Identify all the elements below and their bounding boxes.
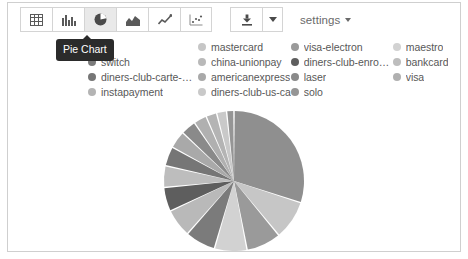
legend-item-label: diners-club-carte-bl...	[101, 71, 198, 83]
legend-color-swatch	[393, 43, 401, 51]
download-button[interactable]	[230, 7, 262, 32]
legend-item-label: diners-club-us-ca	[211, 86, 291, 98]
legend-color-swatch	[88, 88, 96, 96]
chevron-down-icon	[345, 18, 351, 22]
chart-panel: settings jcb switch diners-club-carte-bl…	[7, 2, 461, 252]
area-chart-button[interactable]	[116, 7, 148, 32]
table-view-button[interactable]	[20, 7, 52, 32]
legend-color-swatch	[393, 73, 401, 81]
area-chart-icon	[126, 14, 140, 26]
legend-item-label: diners-club-enroute	[304, 56, 393, 68]
pie-chart-area	[8, 107, 460, 252]
legend-item-label: laser	[304, 71, 327, 83]
tooltip-text: Pie Chart	[63, 43, 107, 55]
legend-color-swatch	[198, 73, 206, 81]
legend-item-label: americanexpress	[211, 71, 290, 83]
legend-item[interactable]: mastercard	[198, 39, 291, 54]
download-options-button[interactable]	[262, 7, 283, 32]
legend-color-swatch	[291, 43, 299, 51]
pie-chart-icon	[94, 13, 107, 26]
legend-item[interactable]: bankcard	[393, 54, 456, 69]
legend-item-label: mastercard	[211, 41, 263, 53]
legend-color-swatch	[291, 73, 299, 81]
toolbar: settings	[8, 3, 460, 36]
table-icon	[30, 14, 43, 26]
legend-item-label: china-unionpay	[211, 56, 282, 68]
download-split-button	[230, 7, 283, 32]
legend-item-label: solo	[304, 86, 323, 98]
legend-column-3: maestro bankcard visa	[393, 39, 456, 99]
caret-down-icon	[269, 17, 277, 22]
legend-item-label: instapayment	[101, 86, 163, 98]
legend-item[interactable]: instapayment	[88, 84, 198, 99]
legend-color-swatch	[393, 58, 401, 66]
legend-color-swatch	[291, 58, 299, 66]
legend-item-label: bankcard	[406, 56, 449, 68]
legend-color-swatch	[198, 88, 206, 96]
download-icon	[241, 14, 253, 26]
legend-color-swatch	[291, 88, 299, 96]
settings-label: settings	[300, 14, 340, 26]
legend-item-label: visa	[406, 71, 424, 83]
legend-color-swatch	[88, 73, 96, 81]
legend-item[interactable]: solo	[291, 84, 393, 99]
legend-item[interactable]: americanexpress	[198, 69, 291, 84]
settings-menu[interactable]: settings	[300, 14, 351, 26]
legend-item[interactable]: diners-club-us-ca	[198, 84, 291, 99]
line-chart-button[interactable]	[148, 7, 180, 32]
legend-color-swatch	[198, 58, 206, 66]
chart-type-button-group	[20, 7, 212, 32]
pie-chart-button[interactable]	[84, 7, 116, 32]
line-chart-icon	[158, 14, 172, 26]
legend-item[interactable]: laser	[291, 69, 393, 84]
legend-column-1: mastercard china-unionpay americanexpres…	[198, 39, 291, 99]
legend-item-label: visa-electron	[304, 41, 363, 53]
legend-item[interactable]: china-unionpay	[198, 54, 291, 69]
pie-chart-graphic[interactable]	[157, 109, 311, 252]
legend-item[interactable]: visa-electron	[291, 39, 393, 54]
scatter-chart-button[interactable]	[180, 7, 212, 32]
legend-item[interactable]: maestro	[393, 39, 456, 54]
screenshot-root: settings jcb switch diners-club-carte-bl…	[0, 0, 468, 259]
chart-legend: jcb switch diners-club-carte-bl... insta…	[88, 39, 456, 99]
legend-item[interactable]: visa	[393, 69, 456, 84]
legend-item[interactable]: diners-club-carte-bl...	[88, 69, 198, 84]
bar-chart-button[interactable]	[52, 7, 84, 32]
legend-item[interactable]: diners-club-enroute	[291, 54, 393, 69]
legend-color-swatch	[198, 43, 206, 51]
legend-column-2: visa-electron diners-club-enroute laser …	[291, 39, 393, 99]
pie-chart-tooltip: Pie Chart	[56, 39, 114, 61]
legend-item-label: maestro	[406, 41, 444, 53]
scatter-chart-icon	[189, 14, 203, 26]
bar-chart-icon	[62, 14, 76, 26]
